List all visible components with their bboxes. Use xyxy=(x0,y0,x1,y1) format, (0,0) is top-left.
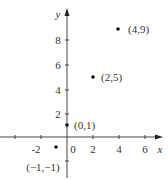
y-tick-label: 2 xyxy=(55,108,61,120)
y-tick-label: 8 xyxy=(55,34,61,46)
x-axis-label: x xyxy=(157,143,163,155)
x-tick-label: -2 xyxy=(31,143,40,155)
y-axis-arrow-icon xyxy=(65,8,70,16)
scatter-plot: -2 0 2 4 6 x 2 4 6 8 y (−1,−1) (0,1) (2,… xyxy=(0,0,168,180)
y-tick-label: 4 xyxy=(55,84,61,96)
x-tick-label: 0 xyxy=(70,143,76,155)
y-axis-label: y xyxy=(55,8,61,20)
data-point xyxy=(54,145,58,149)
data-point xyxy=(65,123,69,127)
point-label: (4,9) xyxy=(128,23,149,36)
data-point xyxy=(116,27,120,31)
x-tick-label: 4 xyxy=(116,143,122,155)
x-tick-label: 6 xyxy=(142,143,148,155)
point-label: (2,5) xyxy=(101,71,122,84)
point-label: (0,1) xyxy=(74,119,95,132)
point-label: (−1,−1) xyxy=(26,161,60,174)
data-point xyxy=(91,75,95,79)
x-axis-arrow-icon xyxy=(155,135,163,140)
y-tick-label: 6 xyxy=(55,59,61,71)
x-tick-label: 2 xyxy=(90,143,96,155)
